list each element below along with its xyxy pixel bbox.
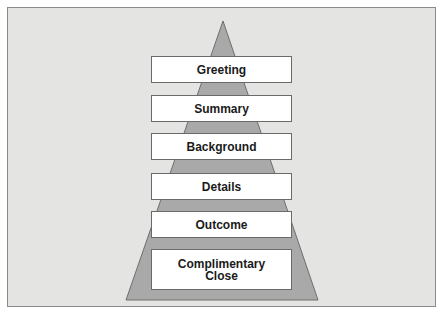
level-label: Background [186, 141, 256, 153]
level-label: Greeting [197, 64, 246, 76]
level-label: Complimentary Close [172, 258, 272, 282]
pyramid-level-summary: Summary [151, 95, 292, 122]
level-label: Outcome [195, 219, 247, 231]
pyramid-level-greeting: Greeting [151, 56, 292, 83]
pyramid-level-complimentary-close: Complimentary Close [151, 249, 292, 290]
pyramid-level-details: Details [151, 173, 292, 200]
pyramid-level-outcome: Outcome [151, 211, 292, 238]
pyramid-level-background: Background [151, 133, 292, 160]
level-label: Summary [194, 103, 249, 115]
level-label: Details [202, 181, 241, 193]
